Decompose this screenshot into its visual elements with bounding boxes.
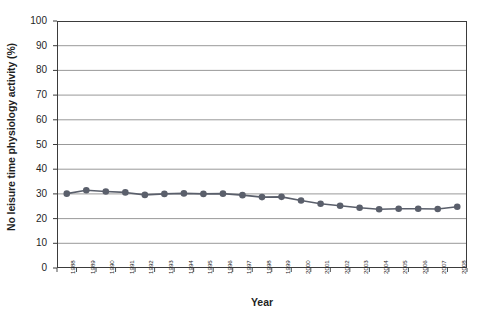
data-point [356,204,363,211]
data-point [454,203,461,210]
data-point [337,202,344,209]
plot-graphics [0,0,477,318]
data-markers [63,187,460,213]
data-point [161,191,168,198]
data-point [83,187,90,194]
line-chart: No leisure time physiology activity (%) … [0,0,477,318]
x-axis-ticks [57,268,467,272]
data-point [317,200,324,207]
data-point [103,188,110,195]
data-point [239,192,246,199]
data-point [376,206,383,213]
data-point [220,190,227,197]
data-point [200,191,207,198]
data-point [181,190,188,197]
data-point [278,194,285,201]
gridlines [58,46,466,244]
x-axis-title: Year [57,296,467,308]
data-point [298,197,305,204]
data-point [63,190,70,197]
data-point [122,189,129,196]
data-point [259,194,266,201]
data-point [142,192,149,199]
data-point [395,205,402,212]
data-point [434,206,441,213]
y-axis-ticks [53,21,57,268]
data-point [415,205,422,212]
